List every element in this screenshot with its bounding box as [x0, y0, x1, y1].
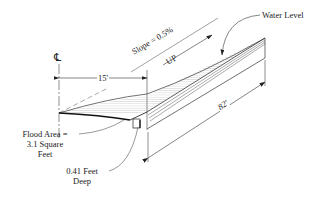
flood-area-leader [79, 120, 124, 134]
depth-label-line1: 0.41 Feet [56, 166, 108, 176]
depth-label-line2: Deep [56, 176, 108, 186]
flood-area-label-line1: Flood Area = [10, 129, 80, 139]
gutter-flow-diagram: ℄ 15' Slope = 0.5% UP Water Level 82' Fl… [0, 0, 317, 200]
centerline-label: ℄ [54, 52, 61, 62]
depth-leader [109, 127, 138, 171]
flood-area-label-line3: Feet [10, 149, 80, 159]
length-dimension [148, 60, 265, 162]
water-level-label: Water Level [262, 10, 304, 20]
gutter-curb [133, 38, 265, 129]
flood-area-label-line2: 3.1 Square [10, 139, 80, 149]
spread-dimension-label: 15' [97, 73, 109, 83]
